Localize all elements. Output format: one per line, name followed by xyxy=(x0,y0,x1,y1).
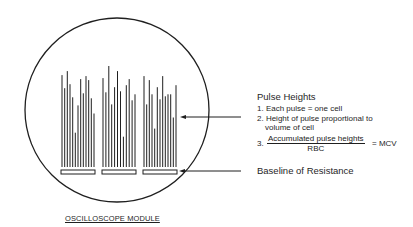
annotation-item-2-line-2: volume of cell xyxy=(265,123,314,132)
formula-denominator: RBC xyxy=(267,144,365,153)
pulse-heights-title: Pulse Heights xyxy=(257,92,316,101)
formula-result: = MCV xyxy=(372,139,397,148)
annotation-item-2-line-1: 2. Height of pulse proportional to xyxy=(257,114,373,123)
baseline-bars xyxy=(61,170,177,174)
arrowhead-icon xyxy=(179,169,185,173)
baseline-bar xyxy=(143,170,177,174)
annotation-item-3-number: 3. xyxy=(257,139,264,148)
formula-numerator: Accumulated pulse heights xyxy=(267,134,365,144)
figure-caption: OSCILLOSCOPE MODULE xyxy=(65,214,160,223)
baseline-bar xyxy=(102,170,136,174)
mcv-formula-fraction: Accumulated pulse heights RBC xyxy=(267,134,365,153)
pulse-heights-arrow xyxy=(180,115,241,119)
baseline-arrow xyxy=(179,169,241,173)
baseline-label: Baseline of Resistance xyxy=(257,166,354,175)
arrowhead-icon xyxy=(180,115,186,119)
baseline-bar xyxy=(61,170,95,174)
pulse-trace xyxy=(62,66,176,167)
annotation-item-1: 1. Each pulse = one cell xyxy=(257,104,342,113)
